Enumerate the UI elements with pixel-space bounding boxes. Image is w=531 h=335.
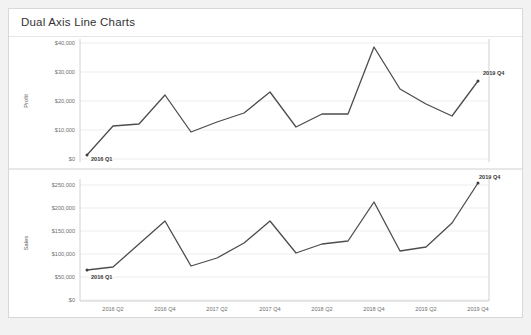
profit-ytick-2: $20,000	[55, 98, 75, 104]
xtick-4: 2018 Q2	[311, 306, 332, 312]
profit-ytick-0: $0	[69, 156, 75, 162]
sales-start-label: 2016 Q1	[91, 274, 112, 280]
xtick-3: 2017 Q4	[259, 306, 280, 312]
profit-axis-title: Profit	[23, 94, 29, 108]
sales-ytick-2: $100,000	[52, 251, 75, 257]
xtick-1: 2016 Q4	[154, 306, 175, 312]
dual-axis-line-charts: $40,000 $30,000 $20,000 $10,000 $0 Profi…	[9, 9, 522, 317]
profit-ytick-4: $40,000	[55, 40, 75, 46]
sales-end-point	[477, 182, 480, 185]
x-axis-ticks: 2016 Q2 2016 Q4 2017 Q2 2017 Q4 2018 Q2 …	[102, 306, 488, 312]
profit-gridlines	[80, 43, 489, 159]
xtick-7: 2019 Q4	[467, 306, 488, 312]
sales-end-label: 2019 Q4	[479, 174, 501, 180]
profit-ytick-3: $30,000	[55, 69, 75, 75]
viz-card: Dual Axis Line Charts $40,000 $30,000	[8, 8, 523, 318]
sales-ytick-4: $200,000	[52, 205, 75, 211]
profit-end-point	[477, 80, 480, 83]
sales-ytick-0: $0	[69, 297, 75, 303]
sales-chart: $250,000 $200,000 $150,000 $100,000 $50,…	[23, 174, 501, 317]
profit-ytick-1: $10,000	[55, 127, 75, 133]
sales-ytick-3: $150,000	[52, 228, 75, 234]
sales-start-point	[86, 269, 89, 272]
profit-start-label: 2016 Q1	[91, 156, 112, 162]
profit-chart: $40,000 $30,000 $20,000 $10,000 $0 Profi…	[23, 39, 505, 162]
xtick-5: 2018 Q4	[363, 306, 384, 312]
profit-end-label: 2019 Q4	[483, 70, 505, 76]
xtick-2: 2017 Q2	[206, 306, 227, 312]
xtick-0: 2016 Q2	[102, 306, 123, 312]
profit-start-point	[86, 154, 89, 157]
sales-ytick-1: $50,000	[55, 274, 75, 280]
sales-axis-title: Sales	[23, 236, 29, 251]
xtick-6: 2019 Q2	[415, 306, 436, 312]
sales-line	[87, 183, 478, 270]
sales-ytick-5: $250,000	[52, 182, 75, 188]
screenshot-root: Dual Axis Line Charts $40,000 $30,000	[0, 0, 531, 335]
